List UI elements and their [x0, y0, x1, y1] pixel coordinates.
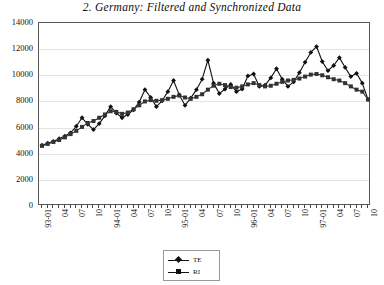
series-te: [40, 44, 371, 147]
x-tick: [173, 205, 174, 208]
data-point: [91, 119, 95, 123]
data-point: [194, 95, 198, 99]
data-point: [326, 75, 330, 79]
plot-area: [38, 22, 370, 205]
data-point: [245, 74, 250, 79]
y-tick-label: 4000: [16, 148, 33, 158]
x-tick: [201, 205, 202, 208]
series-line: [42, 47, 368, 146]
data-point: [292, 78, 296, 82]
series-layer: [39, 23, 371, 206]
data-point: [63, 135, 67, 139]
x-tick: [281, 205, 282, 208]
x-tick: [127, 205, 128, 208]
x-tick-label: 93-01: [44, 209, 53, 228]
data-point: [355, 88, 359, 92]
x-tick: [356, 205, 357, 208]
x-tick: [235, 205, 236, 208]
x-tick: [155, 205, 156, 208]
x-tick: [190, 205, 191, 208]
x-tick-label: 07: [147, 209, 156, 217]
x-tick: [184, 205, 185, 208]
data-point: [205, 58, 210, 63]
x-tick: [47, 205, 48, 208]
data-point: [297, 77, 301, 81]
data-point: [200, 92, 204, 96]
x-tick-label: 10: [370, 209, 379, 217]
data-point: [171, 78, 176, 83]
x-tick: [270, 205, 271, 208]
chart-figure: 2. Germany: Filtered and Synchronized Da…: [0, 0, 384, 285]
x-tick: [104, 205, 105, 208]
data-point: [263, 84, 267, 88]
data-point: [257, 83, 261, 87]
data-point: [109, 109, 113, 113]
data-point: [360, 90, 364, 94]
data-point: [366, 97, 370, 101]
legend-item-ri: RI: [168, 266, 215, 278]
data-point: [320, 73, 324, 77]
x-tick: [213, 205, 214, 208]
legend-swatch-diamond-icon: [168, 256, 189, 265]
data-point: [40, 144, 44, 148]
data-point: [103, 113, 107, 117]
x-tick: [87, 205, 88, 208]
x-tick: [52, 205, 53, 208]
data-point: [229, 85, 233, 89]
x-tick-label: 07: [284, 209, 293, 217]
data-point: [269, 84, 273, 88]
data-point: [212, 84, 216, 88]
data-point: [246, 82, 250, 86]
x-tick: [218, 205, 219, 208]
legend-label-te: TE: [193, 256, 202, 264]
data-point: [189, 97, 193, 101]
x-tick: [70, 205, 71, 208]
data-point: [200, 77, 205, 82]
x-tick: [350, 205, 351, 208]
data-point: [223, 83, 227, 87]
data-point: [160, 98, 164, 102]
data-point: [57, 138, 61, 142]
x-tick: [167, 205, 168, 208]
x-tick: [150, 205, 151, 208]
data-point: [74, 129, 78, 133]
x-tick: [327, 205, 328, 208]
x-tick: [304, 205, 305, 208]
data-point: [337, 79, 341, 83]
data-point: [315, 72, 319, 76]
data-point: [332, 77, 336, 81]
x-tick: [98, 205, 99, 208]
x-tick-label: 10: [301, 209, 310, 217]
x-tick-label: 10: [95, 209, 104, 217]
x-tick-label: 95-01: [181, 209, 190, 228]
data-point: [172, 95, 176, 99]
x-tick: [75, 205, 76, 208]
chart-title: 2. Germany: Filtered and Synchronized Da…: [0, 1, 384, 13]
x-tick: [81, 205, 82, 208]
y-axis: 02000400060008000100001200014000: [0, 22, 36, 205]
legend-item-te: TE: [168, 254, 215, 266]
x-tick: [224, 205, 225, 208]
data-point: [251, 72, 256, 77]
data-point: [132, 107, 136, 111]
x-tick: [144, 205, 145, 208]
data-point: [51, 140, 55, 144]
chart-legend: TE RI: [163, 250, 220, 281]
x-tick: [138, 205, 139, 208]
data-point: [166, 97, 170, 101]
data-point: [309, 73, 313, 77]
x-tick: [133, 205, 134, 208]
x-tick-label: 10: [164, 209, 173, 217]
data-point: [234, 86, 238, 90]
x-tick: [361, 205, 362, 208]
x-tick-label: 10: [233, 209, 242, 217]
x-tick: [110, 205, 111, 208]
x-tick: [310, 205, 311, 208]
y-tick-label: 14000: [12, 17, 33, 27]
x-tick: [264, 205, 265, 208]
x-tick-label: 04: [336, 209, 345, 217]
x-tick: [316, 205, 317, 208]
data-point: [137, 103, 141, 107]
data-point: [303, 60, 308, 65]
x-tick: [92, 205, 93, 208]
